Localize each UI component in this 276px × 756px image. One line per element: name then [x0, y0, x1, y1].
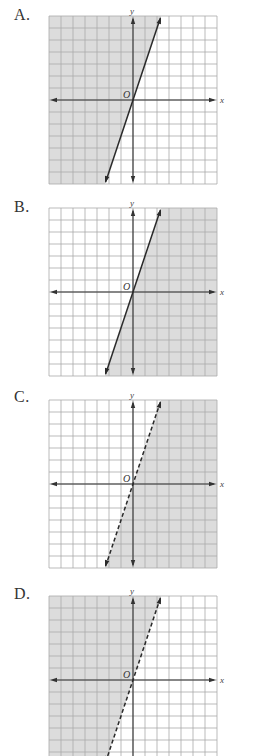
y-axis-label: y	[129, 390, 134, 400]
axis-arrow-icon	[131, 176, 135, 183]
x-axis-label: x	[219, 675, 224, 685]
graph-d: xyO	[49, 586, 224, 756]
axis-arrow-icon	[209, 678, 216, 682]
x-axis-label: x	[219, 287, 224, 297]
axis-arrow-icon	[209, 98, 216, 102]
x-axis-label: x	[219, 479, 224, 489]
origin-label: O	[123, 669, 130, 680]
graph-b: xyO	[49, 198, 224, 376]
axis-arrow-icon	[50, 482, 57, 486]
x-axis-label: x	[219, 95, 224, 105]
axis-arrow-icon	[131, 209, 135, 216]
origin-label: O	[123, 473, 130, 484]
axis-arrow-icon	[50, 290, 57, 294]
y-axis-label: y	[129, 6, 134, 16]
y-axis-label: y	[129, 198, 134, 208]
axis-arrow-icon	[131, 401, 135, 408]
origin-label: O	[123, 281, 130, 292]
y-axis-label: y	[129, 586, 134, 596]
graph-c: xyO	[49, 390, 224, 568]
coordinate-graphs: xyOxyOxyOxyO	[0, 0, 276, 756]
origin-label: O	[123, 89, 130, 100]
graph-a: xyO	[49, 6, 224, 184]
